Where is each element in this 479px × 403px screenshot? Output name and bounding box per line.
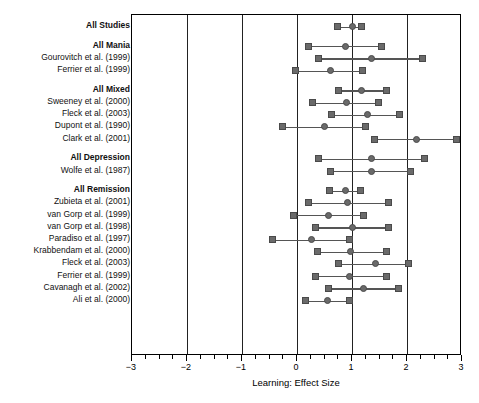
effect-size-point [413, 136, 420, 143]
forest-row [132, 153, 460, 165]
x-axis-title: Learning: Effect Size [131, 377, 461, 388]
ci-low-cap [312, 224, 319, 231]
ci-high-cap [385, 199, 392, 206]
group-label: All Mania [4, 41, 130, 50]
study-label: van Gorp et al. (1999) [4, 210, 130, 219]
forest-row [132, 295, 460, 307]
axis-tick-label: 0 [293, 362, 298, 372]
ci-low-cap [325, 285, 332, 292]
ci-low-cap [305, 199, 312, 206]
ci-low-cap [328, 111, 335, 118]
forest-row [132, 185, 460, 197]
axis-tick-minor [447, 355, 448, 359]
ci-high-cap [396, 111, 403, 118]
forest-plot: All StudiesAll ManiaGourovitch et al. (1… [0, 0, 479, 403]
forest-row [132, 258, 460, 270]
axis-tick-label: −2 [181, 362, 191, 372]
axis-tick-minor [434, 355, 435, 359]
axis-tick-major [351, 355, 352, 361]
ci-high-cap [383, 87, 390, 94]
forest-row [132, 97, 460, 109]
x-axis: −3−2−10123 [131, 355, 461, 375]
effect-size-point [372, 260, 379, 267]
ci-high-cap [357, 187, 364, 194]
study-label-column: All StudiesAll ManiaGourovitch et al. (1… [0, 0, 130, 403]
ci-low-cap [315, 155, 322, 162]
effect-size-point [358, 87, 365, 94]
ci-high-cap [421, 155, 428, 162]
axis-tick-minor [392, 355, 393, 359]
axis-tick-major [406, 355, 407, 361]
study-label: Ferrier et al. (1999) [4, 271, 130, 280]
effect-size-point [344, 199, 351, 206]
ci-low-cap [335, 87, 342, 94]
forest-row [132, 166, 460, 178]
forest-row [132, 271, 460, 283]
group-label: All Mixed [4, 85, 130, 94]
axis-tick-minor [337, 355, 338, 359]
plot-area [131, 14, 461, 355]
ci-high-cap [346, 236, 353, 243]
ci-low-cap [302, 297, 309, 304]
forest-row [132, 65, 460, 77]
study-label: Ferrier et al. (1999) [4, 65, 130, 74]
ci-high-cap [407, 168, 414, 175]
axis-tick-label: −3 [126, 362, 136, 372]
ci-low-cap [269, 236, 276, 243]
ci-low-cap [312, 273, 319, 280]
effect-size-point [368, 55, 375, 62]
axis-tick-minor [159, 355, 160, 359]
group-label: All Studies [4, 21, 130, 30]
forest-row [132, 109, 460, 121]
study-label: Clark et al. (2001) [4, 134, 130, 143]
ci-low-cap [315, 55, 322, 62]
ci-high-cap [383, 273, 390, 280]
axis-tick-minor [420, 355, 421, 359]
study-label: van Gorp et al. (1998) [4, 222, 130, 231]
study-label: Gourovitch et al. (1999) [4, 53, 130, 62]
axis-tick-minor [214, 355, 215, 359]
study-label: Fleck et al. (2003) [4, 109, 130, 118]
ci-high-cap [385, 224, 392, 231]
ci-high-cap [362, 123, 369, 130]
axis-tick-major [241, 355, 242, 361]
axis-tick-minor [269, 355, 270, 359]
axis-tick-label: −1 [236, 362, 246, 372]
axis-tick-label: 3 [458, 362, 463, 372]
forest-row [132, 41, 460, 53]
forest-row [132, 21, 460, 33]
study-label: Krabbendam et al. (2000) [4, 246, 130, 255]
effect-size-point [368, 168, 375, 175]
effect-size-point [360, 285, 367, 292]
axis-tick-minor [282, 355, 283, 359]
forest-row [132, 134, 460, 146]
ci-low-cap [334, 23, 341, 30]
ci-low-cap [314, 248, 321, 255]
study-label: Ali et al. (2000) [4, 295, 130, 304]
effect-size-point [342, 187, 349, 194]
effect-size-point [342, 43, 349, 50]
axis-tick-minor [145, 355, 146, 359]
forest-row [132, 210, 460, 222]
ci-low-cap [326, 187, 333, 194]
study-label: Zubieta et al. (2001) [4, 197, 130, 206]
effect-size-point [308, 236, 315, 243]
axis-tick-label: 2 [403, 362, 408, 372]
ci-low-cap [305, 43, 312, 50]
ci-high-cap [375, 99, 382, 106]
forest-row [132, 234, 460, 246]
axis-tick-minor [172, 355, 173, 359]
effect-size-point [327, 67, 334, 74]
axis-tick-minor [324, 355, 325, 359]
ci-high-cap [405, 260, 412, 267]
study-label: Wolfe et al. (1987) [4, 166, 130, 175]
axis-tick-minor [200, 355, 201, 359]
ci-low-cap [309, 99, 316, 106]
axis-tick-minor [310, 355, 311, 359]
effect-size-point [364, 111, 371, 118]
axis-tick-major [461, 355, 462, 361]
ci-high-cap [395, 285, 402, 292]
study-label: Dupont et al. (1990) [4, 121, 130, 130]
ci-high-cap [383, 248, 390, 255]
effect-size-point [343, 99, 350, 106]
